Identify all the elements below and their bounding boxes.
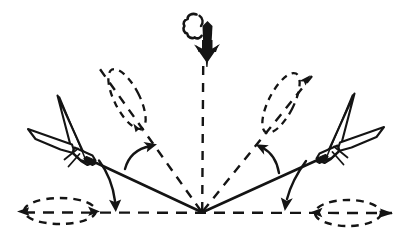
turn-arc-right-upper [256,144,280,173]
aircraft-fan-break-diagram: Aircraft fan break / dispersal maneuver … [0,0,410,251]
aircraft-right-banked [316,94,384,165]
turn-arc-right-lower [281,161,306,211]
dashed-ray-right [203,76,312,211]
descending-threat-arrow [194,21,220,67]
climb-track-ellipse-right [255,68,311,138]
aircraft-left-banked [28,96,96,167]
turn-arc-left-upper [125,142,157,169]
dashed-ray-left [100,69,202,212]
ground-track-ellipse-left [24,198,100,224]
vertical-dashed-reference-line [202,66,203,211]
smoke-puff-icon [183,14,202,38]
diagram-root: Aircraft fan break / dispersal maneuver … [0,0,410,251]
climb-track-ellipse-left [101,64,153,134]
